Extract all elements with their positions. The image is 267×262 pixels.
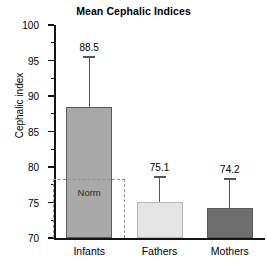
error-bar-cap-fathers (154, 176, 166, 177)
error-bar-mothers (229, 178, 230, 208)
x-axis-label-infants: Infants (73, 245, 105, 257)
y-tick-minor (51, 42, 55, 43)
x-axis-label-fathers: Fathers (142, 245, 178, 257)
y-tick-major (48, 24, 54, 25)
bar-mothers (207, 208, 253, 238)
bar-fathers (137, 202, 183, 238)
y-tick-label: 85 (28, 126, 39, 137)
y-tick-label: 80 (28, 162, 39, 173)
error-bar-fathers (159, 176, 160, 202)
error-bar-cap-mothers (224, 178, 236, 179)
error-bar-cap-infants (83, 56, 95, 57)
y-tick-label: 70 (28, 233, 39, 244)
y-tick-major (48, 166, 54, 167)
y-tick-major (48, 60, 54, 61)
value-label-mothers: 74.2 (220, 164, 239, 175)
y-tick-minor (51, 149, 55, 150)
error-bar-infants (89, 56, 90, 106)
chart-title: Mean Cephalic Indices (0, 5, 267, 17)
value-label-fathers: 75.1 (150, 162, 169, 173)
y-tick-minor (51, 78, 55, 79)
y-tick-label: 75 (28, 197, 39, 208)
y-tick-label: 100 (22, 20, 39, 31)
y-tick-major (48, 95, 54, 96)
x-axis-line (54, 238, 265, 240)
x-axis-label-mothers: Mothers (211, 245, 249, 257)
norm-label: Norm (78, 187, 101, 198)
y-tick-label: 95 (28, 55, 39, 66)
y-tick-minor (51, 113, 55, 114)
y-axis-label: Cephalic index (14, 46, 25, 166)
plot-area: 707580859095100 88.575.174.2 Norm (54, 25, 265, 238)
y-tick-major (48, 131, 54, 132)
chart-container: Mean Cephalic Indices Cephalic index 707… (0, 0, 267, 262)
value-label-infants: 88.5 (79, 42, 98, 53)
y-tick-label: 90 (28, 91, 39, 102)
